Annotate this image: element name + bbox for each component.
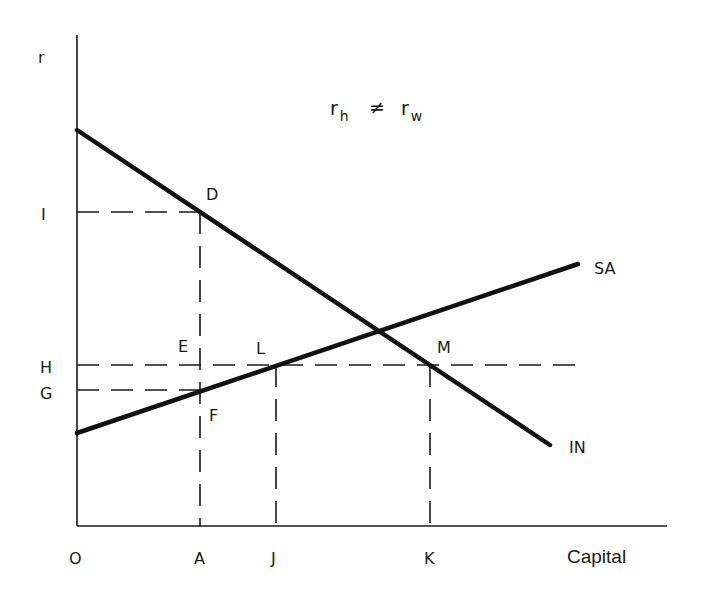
title-r-w: rw [401,97,422,124]
origin-label: O [69,549,82,568]
capital-market-diagram: r Capital O I H G A J K SA IN D E F L M … [0,0,708,602]
title-neq: ≠ [369,96,385,118]
y-axis-label: r [38,48,45,67]
curve-label-SA: SA [594,259,615,278]
x-tick-A: A [194,549,205,568]
point-E: E [178,337,188,356]
x-tick-J: J [270,549,276,568]
title-r-h: rh [330,97,349,124]
point-F: F [209,406,218,425]
point-L: L [256,339,265,358]
guide-lines [77,212,580,526]
curve-IN [77,130,550,445]
y-tick-H: H [40,358,52,377]
point-M: M [437,338,451,357]
x-tick-K: K [424,549,435,568]
y-tick-G: G [40,384,52,403]
y-tick-I: I [41,205,46,224]
point-D: D [206,185,218,204]
curve-label-IN: IN [569,438,586,457]
curve-SA [77,264,578,433]
x-axis-label: Capital [567,546,626,567]
title-equation: rh ≠ rw [330,96,422,124]
